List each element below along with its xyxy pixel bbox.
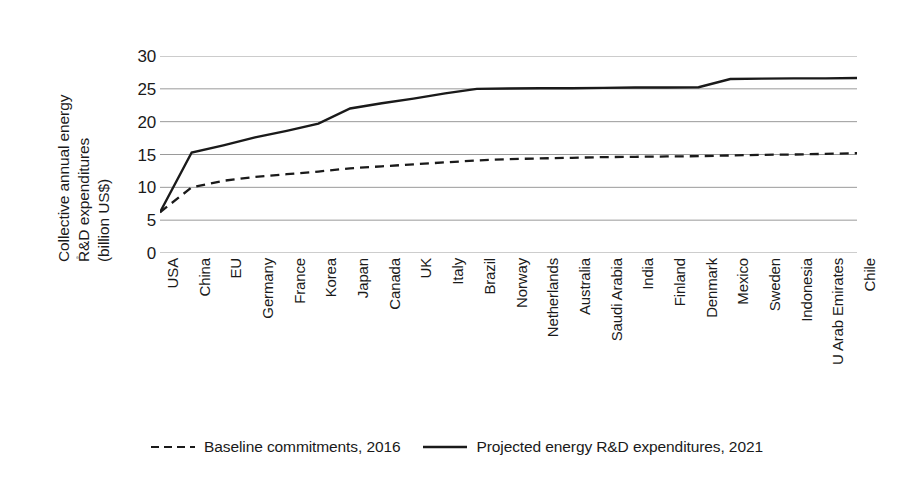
series-line-1 (160, 153, 857, 212)
x-tick-label: Norway (514, 258, 529, 308)
x-tick-label: Brazil (482, 258, 497, 295)
x-tick-label: Netherlands (545, 258, 560, 337)
x-tick-label: Italy (450, 258, 465, 285)
x-tick-label: Japan (355, 258, 370, 298)
chart-figure: Collective annual energy R&D expenditure… (0, 0, 913, 480)
y-tick-label: 25 (122, 81, 156, 98)
plot-area (160, 56, 857, 253)
legend-label-baseline: Baseline commitments, 2016 (204, 439, 400, 455)
x-tick-label: France (292, 258, 307, 304)
x-tick-label: U Arab Emirates (830, 258, 845, 365)
y-tick-label: 5 (122, 212, 156, 229)
x-tick-label: Chile (862, 258, 877, 291)
legend-item-projected: Projected energy R&D expenditures, 2021 (422, 439, 762, 455)
legend-dashed-line-icon (150, 441, 196, 453)
legend-solid-line-icon (422, 441, 468, 453)
x-tick-label: Mexico (735, 258, 750, 305)
chart-svg (160, 56, 857, 253)
x-tick-label: China (197, 258, 212, 296)
y-tick-label: 10 (122, 179, 156, 196)
data-series-group (160, 78, 857, 212)
y-tick-label: 20 (122, 114, 156, 131)
y-tick-label: 0 (122, 245, 156, 262)
x-tick-label: UK (418, 258, 433, 279)
x-tick-label: Indonesia (799, 258, 814, 322)
legend-label-projected: Projected energy R&D expenditures, 2021 (476, 439, 762, 455)
y-axis-title: Collective annual energy R&D expenditure… (34, 22, 116, 262)
x-tick-label: Denmark (704, 258, 719, 318)
x-tick-label: India (640, 258, 655, 290)
x-tick-label: Saudi Arabia (609, 258, 624, 341)
y-tick-label: 15 (122, 147, 156, 164)
x-tick-label: EU (228, 258, 243, 279)
legend-item-baseline: Baseline commitments, 2016 (150, 439, 400, 455)
x-tick-label: Australia (577, 258, 592, 315)
chart-legend: Baseline commitments, 2016 Projected ene… (0, 432, 913, 462)
x-tick-label: Germany (260, 258, 275, 319)
series-line-2 (160, 78, 857, 212)
x-tick-label: Canada (387, 258, 402, 310)
x-tick-label: USA (165, 258, 180, 288)
x-axis-tick-labels: USAChinaEUGermanyFranceKoreaJapanCanadaU… (160, 258, 857, 413)
x-tick-label: Finland (672, 258, 687, 306)
x-tick-label: Sweden (767, 258, 782, 311)
y-tick-label: 30 (122, 48, 156, 65)
x-tick-label: Korea (323, 258, 338, 297)
